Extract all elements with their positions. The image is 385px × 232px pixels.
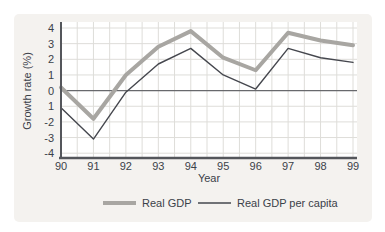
x-tick-label: 91 [87,160,99,172]
y-tick-label: -2 [44,116,54,128]
y-tick-label: 1 [48,100,54,112]
x-tick-label: 99 [347,160,359,172]
x-axis-title: Year [198,172,221,184]
x-tick-label: 98 [314,160,326,172]
legend-label-real-gdp: Real GDP [142,197,192,209]
x-tick-label: 95 [217,160,229,172]
x-tick-label: 94 [185,160,197,172]
y-tick-label: -4 [44,147,54,159]
y-axis-title: Growth rate (%) [21,52,33,130]
legend: Real GDP Real GDP per capita [103,197,339,209]
x-tick-label: 93 [152,160,164,172]
chart-figure: 90919293949596979899432101-2-3-4 Growth … [0,0,385,232]
gdp-growth-chart: 90919293949596979899432101-2-3-4 Growth … [0,0,385,232]
y-tick-label: 2 [48,53,54,65]
x-tick-label: 96 [250,160,262,172]
x-tick-label: 97 [282,160,294,172]
y-tick-label: 4 [48,22,54,34]
legend-label-real-gdp-per-capita: Real GDP per capita [237,197,339,209]
y-tick-label: 1 [48,69,54,81]
y-tick-label: 3 [48,38,54,50]
x-tick-label: 90 [55,160,67,172]
y-tick-label: 0 [48,85,54,97]
y-tick-label: -3 [44,132,54,144]
x-tick-label: 92 [120,160,132,172]
